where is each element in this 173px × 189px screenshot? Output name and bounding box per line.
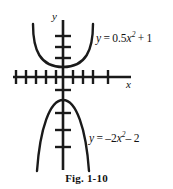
equation-upper-coefficient: 0.5 <box>112 32 126 44</box>
equation-upper-constant: 1 <box>147 32 153 44</box>
y-axis-label: y <box>52 11 57 22</box>
figure-container: y x y = 0.5x2 + 1 y = –2x2– 2 Fig. 1-10 <box>0 0 173 189</box>
x-axis-label: x <box>126 79 131 90</box>
figure-caption: Fig. 1-10 <box>0 172 173 184</box>
equation-label-upper: y = 0.5x2 + 1 <box>96 33 152 45</box>
equation-label-lower: y = –2x2– 2 <box>89 133 139 145</box>
equation-lower-constant: 2 <box>134 132 140 144</box>
equation-lower-coefficient: –2 <box>105 132 117 144</box>
coordinate-plot <box>0 0 173 189</box>
